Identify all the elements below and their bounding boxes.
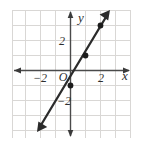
- y-axis-label: y: [76, 10, 84, 25]
- coordinate-plane-figure: y x O −2 2 2 −2: [0, 0, 142, 146]
- y-axis-arrow-down: [68, 130, 74, 137]
- data-point: [98, 23, 104, 29]
- y-tick-label-positive-two: 2: [59, 34, 65, 48]
- data-point: [68, 83, 74, 89]
- x-tick-label-negative-two: −2: [33, 71, 47, 85]
- y-tick-label-negative-two: −2: [57, 94, 71, 108]
- x-tick-label-positive-two: 2: [98, 71, 104, 85]
- x-axis-label: x: [121, 68, 128, 83]
- origin-label: O: [59, 70, 68, 84]
- data-point: [83, 53, 89, 59]
- y-axis-arrow-up: [68, 11, 74, 18]
- graph-canvas: y x O −2 2 2 −2: [0, 0, 142, 146]
- x-axis-arrow-left: [14, 68, 21, 74]
